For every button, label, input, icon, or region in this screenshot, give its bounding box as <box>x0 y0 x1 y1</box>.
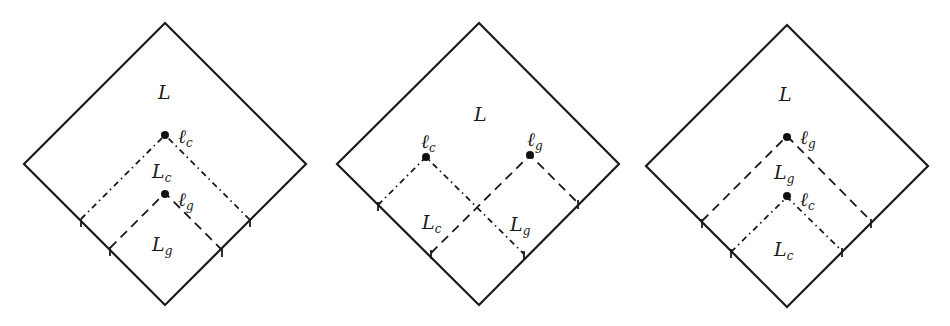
label-region-Lg: Lg <box>773 161 795 186</box>
label-point-lc: ℓc <box>178 125 193 150</box>
outer-diamond <box>646 25 928 307</box>
label-point-lc: ℓc <box>421 130 436 155</box>
lc-cone-boundary <box>378 157 524 254</box>
lg-cone-boundary <box>110 193 222 250</box>
label-region-Lc: Lc <box>421 211 442 236</box>
point-lc <box>783 192 791 200</box>
label-point-lc: ℓc <box>800 188 815 213</box>
label-point-lg: ℓg <box>527 128 543 153</box>
panel-middle: L ℓc ℓg Lc Lg <box>337 23 619 305</box>
point-lg <box>161 190 169 198</box>
outer-diamond <box>24 23 306 305</box>
label-L: L <box>473 103 487 125</box>
label-point-lg: ℓg <box>800 126 816 151</box>
label-L: L <box>778 83 792 105</box>
point-lg <box>526 151 534 159</box>
label-region-Lc: Lc <box>773 238 794 263</box>
lg-cone-boundary <box>431 155 578 253</box>
label-L: L <box>157 81 171 103</box>
label-region-Lg: Lg <box>509 213 531 238</box>
point-lg <box>783 133 791 141</box>
label-region-Lg: Lg <box>151 233 173 258</box>
label-region-Lc: Lc <box>151 160 172 185</box>
point-lc <box>161 131 169 139</box>
outer-diamond <box>337 23 619 305</box>
panel-left: L ℓc Lc ℓg Lg <box>24 23 306 305</box>
label-point-lg: ℓg <box>178 188 194 213</box>
figure-canvas: L ℓc Lc ℓg Lg L ℓc ℓg Lc Lg <box>0 0 950 326</box>
panel-right: L ℓg Lg ℓc Lc <box>646 25 928 307</box>
